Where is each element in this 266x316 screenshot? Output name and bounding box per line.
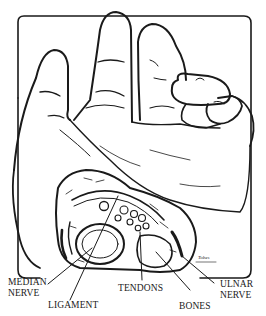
hand-wrist-illustration — [0, 0, 266, 316]
label-median-nerve: MEDIAN NERVE — [8, 277, 47, 299]
label-bones: BONES — [179, 301, 211, 312]
finger-left — [14, 50, 70, 170]
leader-ulnar-nerve — [182, 256, 214, 283]
background-frame — [18, 16, 251, 278]
artist-signature: Tobes — [198, 255, 210, 260]
bone-right — [137, 235, 172, 267]
label-ligament: LIGAMENT — [48, 300, 98, 311]
label-ulnar-nerve: ULNAR NERVE — [220, 279, 253, 301]
palm — [13, 170, 40, 268]
label-tendons: TENDONS — [118, 283, 163, 294]
wrist-cross-section — [56, 170, 196, 272]
leader-tendons — [140, 232, 142, 280]
median-nerve-shape — [100, 202, 109, 211]
tendons-cluster — [115, 206, 149, 231]
